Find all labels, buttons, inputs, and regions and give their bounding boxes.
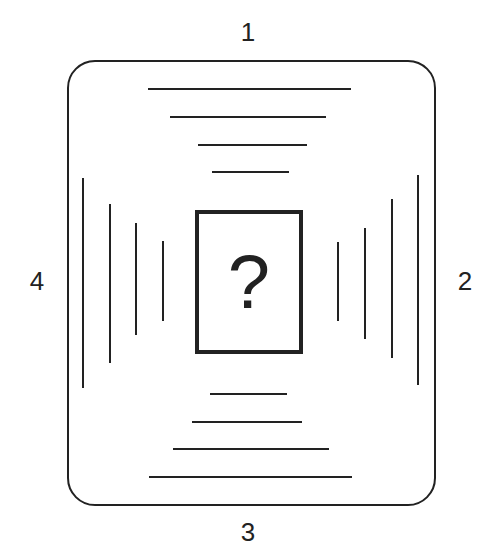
vertical-line	[109, 204, 111, 363]
vertical-line	[82, 178, 84, 388]
side-label-left: 4	[22, 268, 52, 294]
horizontal-line	[192, 421, 302, 423]
horizontal-line	[210, 393, 287, 395]
vertical-line	[162, 241, 164, 321]
vertical-line	[135, 223, 137, 335]
horizontal-line	[170, 116, 326, 118]
center-box: ?	[195, 210, 303, 354]
horizontal-line	[212, 171, 289, 173]
side-label-bottom: 3	[233, 519, 263, 545]
side-label-top: 1	[233, 19, 263, 45]
vertical-line	[391, 199, 393, 358]
vertical-line	[364, 228, 366, 339]
vertical-line	[337, 242, 339, 321]
side-label-right: 2	[450, 268, 480, 294]
horizontal-line	[173, 448, 329, 450]
vertical-line	[417, 175, 419, 385]
question-mark-icon: ?	[228, 244, 270, 320]
horizontal-line	[198, 144, 307, 146]
horizontal-line	[148, 88, 351, 90]
horizontal-line	[149, 476, 352, 478]
